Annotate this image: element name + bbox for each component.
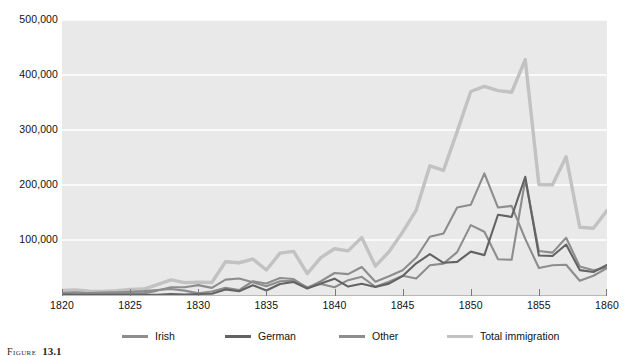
- legend-swatch-total-immigration: [447, 335, 473, 338]
- chart-legend: IrishGermanOtherTotal immigration: [62, 328, 607, 346]
- x-tick-label-1855: 1855: [527, 299, 551, 311]
- series-line-irish: [62, 173, 607, 293]
- x-tick-1850: [471, 289, 472, 296]
- x-tick-label-1835: 1835: [254, 299, 278, 311]
- legend-swatch-german: [225, 335, 251, 338]
- x-tick-1860: [606, 289, 607, 296]
- figure-caption-label: Figure: [7, 346, 36, 356]
- x-tick-label-1820: 1820: [50, 299, 74, 311]
- x-tick-1845: [403, 289, 404, 296]
- plot-area: [62, 20, 607, 295]
- x-tick-1825: [130, 289, 131, 296]
- x-tick-label-1825: 1825: [118, 299, 142, 311]
- x-tick-label-1850: 1850: [459, 299, 483, 311]
- legend-item-german[interactable]: German: [225, 328, 296, 344]
- y-tick-label-300000: 300,000: [0, 124, 58, 135]
- y-tick-label-400000: 400,000: [0, 69, 58, 80]
- series-line-total-immigration: [62, 60, 607, 292]
- y-tick-label-500000: 500,000: [0, 14, 58, 25]
- x-tick-label-1840: 1840: [323, 299, 347, 311]
- figure-caption-number: 13.1: [42, 345, 61, 356]
- figure-caption: Figure13.1: [7, 346, 62, 356]
- x-tick-1830: [198, 289, 199, 296]
- series-line-german: [62, 177, 607, 295]
- legend-label-total-immigration: Total immigration: [480, 330, 559, 342]
- x-tick-label-1860: 1860: [595, 299, 619, 311]
- immigration-line-chart-figure: 100,000200,000300,000400,000500,000 1820…: [0, 0, 625, 356]
- legend-swatch-other: [339, 335, 365, 338]
- x-tick-1840: [335, 289, 336, 296]
- legend-label-german: German: [258, 330, 296, 342]
- legend-item-other[interactable]: Other: [339, 328, 398, 344]
- y-tick-label-100000: 100,000: [0, 234, 58, 245]
- x-tick-label-1830: 1830: [186, 299, 210, 311]
- legend-label-other: Other: [372, 330, 398, 342]
- legend-swatch-irish: [122, 335, 148, 338]
- legend-label-irish: Irish: [155, 330, 175, 342]
- x-tick-1855: [539, 289, 540, 296]
- y-axis: 100,000200,000300,000400,000500,000: [0, 0, 58, 300]
- x-tick-label-1845: 1845: [391, 299, 415, 311]
- x-tick-1835: [266, 289, 267, 296]
- legend-item-irish[interactable]: Irish: [122, 328, 175, 344]
- chart-canvas: [62, 20, 607, 295]
- legend-item-total-immigration[interactable]: Total immigration: [447, 328, 559, 344]
- y-tick-label-200000: 200,000: [0, 179, 58, 190]
- x-tick-1820: [62, 289, 63, 296]
